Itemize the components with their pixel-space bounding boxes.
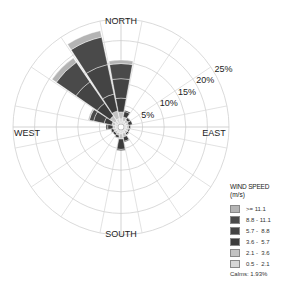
- calms-label: Calms: 1.93%: [230, 271, 285, 277]
- petal-segment: [129, 125, 131, 128]
- petal-segment: [113, 126, 116, 129]
- legend-unit: (m/s): [230, 191, 285, 199]
- legend: WIND SPEED (m/s) >= 11.1 8.8 - 11.1 5.7 …: [230, 183, 285, 277]
- legend-item: 8.8 - 11.1: [230, 214, 285, 225]
- legend-swatch: [230, 216, 240, 224]
- ring-label: 15%: [178, 87, 196, 97]
- ring-label: 5%: [141, 110, 154, 120]
- west-label: WEST: [14, 128, 41, 138]
- petal-segment: [108, 125, 113, 130]
- legend-range: 8.8 - 11.1: [246, 217, 271, 223]
- south-label: SOUTH: [105, 229, 137, 239]
- legend-item: 0.5 - 2.1: [230, 258, 285, 269]
- petal-segment: [117, 149, 126, 151]
- ring-label: 20%: [196, 75, 214, 85]
- legend-swatch: [230, 205, 240, 213]
- legend-item: 5.7 - 8.8: [230, 225, 285, 236]
- legend-item: 2.1 - 3.6: [230, 247, 285, 258]
- legend-item: 3.6 - 5.7: [230, 236, 285, 247]
- legend-item: >= 11.1: [230, 203, 285, 214]
- petal-segment: [110, 64, 133, 80]
- ring-label: 10%: [160, 98, 178, 108]
- legend-range: 0.5 - 2.1: [246, 261, 270, 267]
- petal-segment: [106, 124, 108, 129]
- legend-swatch: [230, 249, 240, 257]
- legend-range: 2.1 - 3.6: [246, 250, 270, 256]
- legend-title: WIND SPEED: [230, 183, 285, 191]
- petal-segment: [127, 126, 129, 129]
- east-label: EAST: [202, 128, 226, 138]
- legend-range: 5.7 - 8.8: [246, 228, 270, 234]
- legend-range: >= 11.1: [246, 206, 266, 212]
- north-label: NORTH: [105, 16, 137, 26]
- legend-swatch: [230, 260, 240, 268]
- legend-swatch: [230, 227, 240, 235]
- legend-swatch: [230, 238, 240, 246]
- ring-label: 25%: [215, 64, 233, 74]
- legend-range: 3.6 - 5.7: [246, 239, 270, 245]
